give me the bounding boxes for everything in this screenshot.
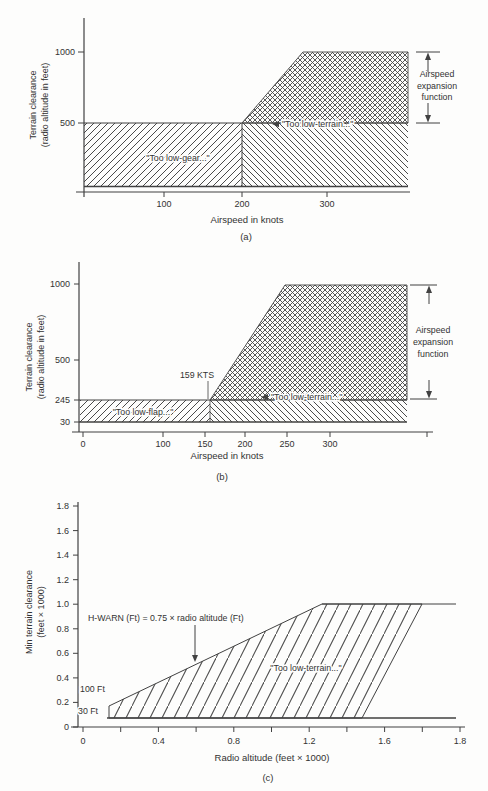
chart-caption: (c) (262, 772, 273, 783)
y-tick-label: 0.4 (56, 673, 69, 683)
chart-caption: (a) (240, 231, 252, 242)
y-tick-label: 1.8 (56, 501, 69, 511)
label-too-low-terrain: "Too low-terrain..." (282, 119, 353, 129)
y-axis-label: (radio altitude in feet) (36, 315, 46, 400)
y-tick-label: 500 (55, 355, 70, 365)
too-low-terrain-region (210, 400, 407, 422)
y-tick-label: 1.0 (56, 599, 69, 609)
x-tick-label: 150 (197, 439, 212, 449)
y-axis-label: (radio altitude in feet) (40, 63, 50, 148)
chart-c: 1.8 1.6 1.4 1.2 1.0 0.8 0.6 0.4 0.2 0 0 … (0, 490, 488, 791)
x-tick-label: 0.4 (152, 736, 165, 746)
x-axis-label: Airspeed in knots (211, 214, 284, 225)
airspeed-expansion-region (242, 52, 408, 123)
y-tick-label: 245 (55, 395, 70, 405)
x-tick-label: 200 (237, 439, 252, 449)
annotation-airspeed-expansion: Airspeed (416, 325, 451, 335)
annotation-airspeed-expansion: expansion (413, 337, 453, 347)
x-tick-label: 1.6 (378, 736, 391, 746)
chart-a: 1000 500 100 200 300 Airspeed expansion … (0, 0, 488, 250)
y-tick-label: 0 (64, 722, 69, 732)
y-tick-label: 1000 (50, 279, 70, 289)
x-tick-label: 250 (279, 439, 294, 449)
up-arrow-icon (426, 286, 432, 294)
y-axis-label: (feet × 1000) (36, 586, 46, 637)
too-low-terrain-region (242, 123, 408, 187)
y-axis-label: Terrain clearance (24, 322, 34, 391)
y-tick-label: 1.4 (56, 550, 69, 560)
y-tick-label: 1000 (55, 47, 75, 57)
x-tick-label: 1.2 (303, 736, 316, 746)
down-arrow-icon (426, 391, 432, 399)
x-tick-label: 100 (156, 199, 171, 209)
x-tick-label: 300 (319, 199, 334, 209)
y-tick-label: 30 (60, 417, 70, 427)
x-tick-label: 0 (80, 736, 85, 746)
y-axis-label: Terrain clearance (28, 70, 38, 139)
x-tick-label: 200 (234, 199, 249, 209)
up-arrow-icon (425, 53, 431, 61)
x-axis-label: Radio altitude (feet × 1000) (215, 752, 330, 763)
y-tick-label: 0.2 (56, 697, 69, 707)
y-tick-label: 500 (60, 118, 75, 128)
annotation-airspeed-expansion: Airspeed (420, 69, 455, 79)
y-tick-label: 0.6 (56, 648, 69, 658)
y-tick-label: 1.6 (56, 526, 69, 536)
y-axis-label: Min terrain clearance (24, 570, 34, 654)
x-tick-label: 0.8 (228, 736, 241, 746)
annotation-airspeed-expansion: function (422, 92, 453, 102)
y-ticks (73, 506, 78, 727)
annotation-airspeed-expansion: expansion (417, 81, 457, 91)
label-too-low-terrain: "Too low-terrain..." (271, 392, 342, 402)
gpws-envelope-figure: 1000 500 100 200 300 Airspeed expansion … (0, 0, 488, 791)
x-tick-label: 0 (80, 439, 85, 449)
label-100ft: 100 Ft (80, 684, 105, 694)
hwarn-annotation: H-WARN (Ft) = 0.75 × radio altitude (Ft) (88, 613, 244, 623)
chart-caption: (b) (216, 471, 228, 482)
x-tick-label: 300 (322, 439, 337, 449)
airspeed-expansion-region (210, 285, 407, 400)
label-too-low-gear: "Too low-gear..." (146, 153, 209, 163)
x-ticks (83, 727, 460, 732)
label-30ft: 30 Ft (78, 706, 99, 716)
label-too-low-flap: "Too low-flap..." (113, 407, 174, 417)
x-tick-label: 100 (155, 439, 170, 449)
label-too-low-terrain: "Too low-terrain..." (270, 663, 341, 673)
down-arrow-icon (425, 115, 431, 123)
y-tick-label: 0.8 (56, 624, 69, 634)
label-159kts: 159 KTS (180, 370, 214, 380)
chart-b: 1000 500 245 30 0 100 150 200 250 300 15… (0, 250, 488, 490)
y-tick-label: 1.2 (56, 575, 69, 585)
down-arrow-icon (192, 655, 198, 662)
x-axis-label: Airspeed in knots (191, 450, 264, 461)
x-tick-label: 1.8 (454, 736, 467, 746)
annotation-airspeed-expansion: function (418, 349, 449, 359)
